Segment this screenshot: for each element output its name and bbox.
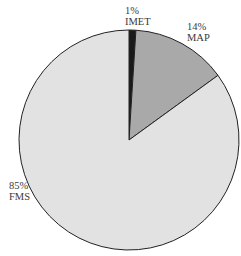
label-imet-name: IMET <box>125 16 151 27</box>
label-map-name: MAP <box>187 32 210 43</box>
label-map-percent: 14% <box>187 21 210 32</box>
label-imet-percent: 1% <box>125 5 151 16</box>
label-map: 14% MAP <box>187 21 210 43</box>
label-fms-name: FMS <box>9 191 30 202</box>
label-fms: 85% FMS <box>9 180 30 202</box>
pie-slices <box>19 30 239 250</box>
label-imet: 1% IMET <box>125 5 151 27</box>
label-fms-percent: 85% <box>9 180 30 191</box>
